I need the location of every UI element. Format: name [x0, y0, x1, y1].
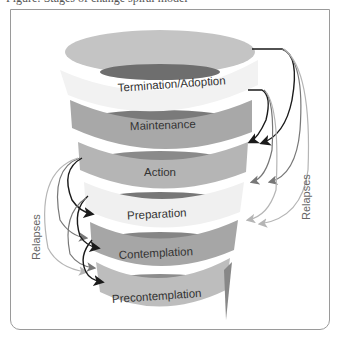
- stage-label-action: Action: [144, 166, 176, 178]
- spiral-fronts: [60, 60, 258, 320]
- relapses-label-left: Relapses: [30, 214, 42, 260]
- stage-label-maintenance: Maintenance: [130, 118, 196, 132]
- left-relapse-arrows: [45, 158, 102, 282]
- stages-of-change-spiral: Termination/Adoption Maintenance Action …: [0, 0, 341, 340]
- relapses-label-right: Relapses: [300, 174, 312, 220]
